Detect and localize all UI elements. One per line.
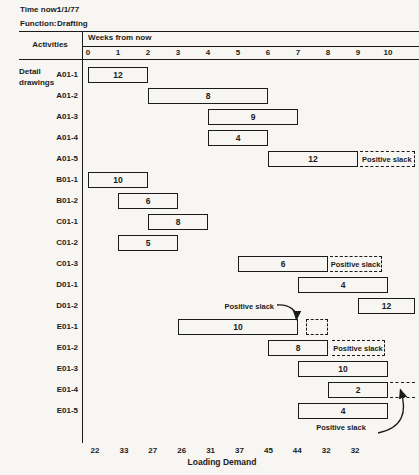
- gantt-bar-C01-3: 6: [238, 256, 328, 272]
- positive-slack-box-E01-1: [306, 319, 329, 335]
- week-tick-0: 0: [78, 48, 98, 58]
- gantt-bar-A01-3: 9: [208, 109, 298, 125]
- activity-label-D01-2: D01-2: [30, 301, 78, 311]
- axis-vertical-rule: [82, 31, 83, 443]
- activity-label-B01-2: B01-2: [30, 196, 78, 206]
- header-top-rule: [19, 31, 419, 32]
- gantt-bar-E01-3: 10: [298, 361, 388, 377]
- activity-label-E01-4: E01-4: [30, 385, 78, 395]
- function-value: Drafting: [57, 19, 88, 29]
- loading-demand-value-week-6: 37: [227, 446, 253, 456]
- gantt-bar-A01-5: 12: [268, 151, 358, 167]
- gantt-bar-E01-1: 10: [178, 319, 298, 335]
- gantt-bar-D01-2: 12: [358, 298, 415, 314]
- gantt-bar-A01-4: 4: [208, 130, 268, 146]
- gantt-bar-E01-2: 8: [268, 340, 328, 356]
- activity-label-C01-1: C01-1: [30, 217, 78, 227]
- header-bottom-rule: [19, 59, 419, 60]
- week-tick-5: 5: [228, 48, 248, 58]
- positive-slack-region-A01-5: Positive slack: [360, 151, 416, 167]
- loading-demand-value-week-5: 31: [198, 446, 224, 456]
- loading-demand-value-week-2: 33: [111, 446, 137, 456]
- loading-demand-value-week-4: 26: [169, 446, 195, 456]
- week-tick-6: 6: [258, 48, 278, 58]
- gantt-bar-B01-2: 6: [118, 193, 178, 209]
- weeks-from-now-header: Weeks from now: [88, 33, 151, 43]
- loading-demand-value-week-3: 27: [140, 446, 166, 456]
- activity-label-C01-2: C01-2: [30, 238, 78, 248]
- loading-demand-value-week-1: 22: [82, 446, 108, 456]
- activity-label-D01-1: D01-1: [30, 280, 78, 290]
- activity-label-E01-5: E01-5: [30, 406, 78, 416]
- week-tick-7: 7: [288, 48, 308, 58]
- time-now-value: 1/1/77: [57, 5, 79, 15]
- time-now-label: Time now:: [20, 5, 59, 15]
- gantt-bar-D01-1: 4: [298, 277, 388, 293]
- gantt-bar-C01-2: 5: [118, 235, 178, 251]
- activities-header: Activities: [19, 40, 81, 50]
- loading-demand-value-week-9: 32: [313, 446, 339, 456]
- gantt-loading-chart-figure: Time now: 1/1/77 Function: Drafting Acti…: [0, 0, 419, 475]
- weeks-sub-rule: [82, 46, 419, 47]
- activity-label-C01-3: C01-3: [30, 259, 78, 269]
- positive-slack-region-E01-2: Positive slack: [332, 340, 385, 356]
- activity-label-A01-2: A01-2: [30, 91, 78, 101]
- activity-label-E01-1: E01-1: [30, 322, 78, 332]
- activity-label-A01-3: A01-3: [30, 112, 78, 122]
- gantt-bar-A01-1: 12: [88, 67, 148, 83]
- activity-label-E01-2: E01-2: [30, 343, 78, 353]
- gantt-bar-E01-5: 4: [298, 403, 388, 419]
- positive-slack-region-E01-4: [390, 382, 415, 398]
- week-tick-8: 8: [318, 48, 338, 58]
- week-tick-1: 1: [108, 48, 128, 58]
- loading-demand-value-week-8: 44: [284, 446, 310, 456]
- positive-slack-callout-e01-1: Positive slack: [210, 302, 274, 312]
- activity-label-A01-1: A01-1: [30, 70, 78, 80]
- gantt-bar-A01-2: 8: [148, 88, 268, 104]
- week-tick-10: 10: [378, 48, 398, 58]
- function-label: Function:: [20, 19, 56, 29]
- gantt-bar-C01-1: 8: [148, 214, 208, 230]
- activity-label-A01-5: A01-5: [30, 154, 78, 164]
- gantt-bar-E01-4: 2: [328, 382, 388, 398]
- activity-label-B01-1: B01-1: [30, 175, 78, 185]
- activity-label-A01-4: A01-4: [30, 133, 78, 143]
- activity-label-E01-3: E01-3: [30, 364, 78, 374]
- loading-demand-value-week-10: 32: [342, 446, 368, 456]
- week-tick-4: 4: [198, 48, 218, 58]
- week-tick-9: 9: [348, 48, 368, 58]
- slack-arrow-e01-1: [277, 305, 297, 319]
- week-tick-2: 2: [138, 48, 158, 58]
- loading-demand-axis-label: Loading Demand: [162, 457, 282, 467]
- gantt-bar-B01-1: 10: [88, 172, 148, 188]
- week-tick-3: 3: [168, 48, 188, 58]
- positive-slack-region-C01-3: Positive slack: [330, 256, 382, 272]
- loading-demand-value-week-7: 45: [255, 446, 281, 456]
- positive-slack-callout-e01-4: Positive slack: [311, 423, 371, 433]
